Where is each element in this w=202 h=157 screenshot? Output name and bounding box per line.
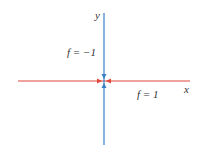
y-axis-label: y bbox=[94, 9, 100, 21]
x-axis-label: x bbox=[183, 83, 189, 95]
left-arrow-icon bbox=[97, 79, 102, 84]
diagram-canvas: y x f = −1 f = 1 bbox=[0, 0, 202, 157]
up-arrow-icon bbox=[102, 74, 107, 79]
right-arrow-icon bbox=[106, 79, 111, 84]
down-arrow-icon bbox=[102, 83, 107, 88]
annotation-f-one: f = 1 bbox=[137, 88, 158, 100]
annotation-f-minus-one: f = −1 bbox=[67, 46, 96, 58]
